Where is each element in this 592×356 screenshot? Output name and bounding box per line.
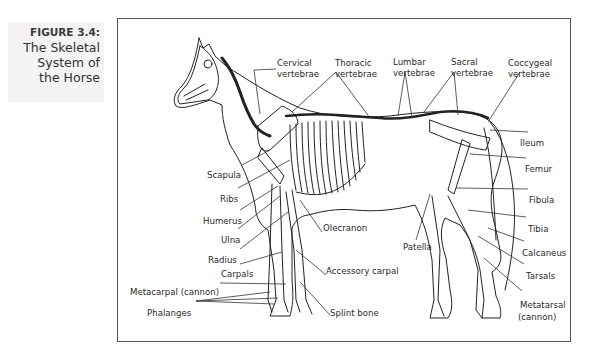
label-ileum: Ileum: [520, 138, 544, 148]
label-fibula: Fibula: [529, 195, 554, 205]
eye-orbit: [204, 60, 212, 68]
label-coccygeal-vertebrae: Coccygealvertebrae: [508, 58, 552, 79]
label-sacral-vertebrae: Sacralvertebrae: [451, 57, 493, 78]
label-metatarsal: Metatarsal(cannon): [518, 300, 566, 322]
label-tarsals: Tarsals: [525, 271, 556, 281]
label-phalanges: Phalanges: [147, 308, 192, 318]
humerus-bone: [258, 148, 284, 184]
skull: [178, 46, 219, 104]
label-thoracic-vertebrae: Thoracicvertebrae: [334, 58, 377, 79]
label-femur: Femur: [525, 164, 553, 174]
bone-labels: Cervicalvertebrae Thoracicvertebrae Lumb…: [130, 57, 567, 322]
label-tibia: Tibia: [527, 224, 548, 234]
label-lumbar-vertebrae: Lumbarvertebrae: [393, 57, 435, 78]
ribs: [290, 121, 365, 195]
label-scapula: Scapula: [207, 170, 241, 180]
label-metacarpal: Metacarpal (cannon): [130, 287, 219, 297]
label-ulna: Ulna: [221, 235, 240, 245]
jaw-teeth: [184, 84, 208, 100]
label-ribs: Ribs: [220, 194, 239, 204]
front-leg-2b: [292, 190, 312, 314]
label-olecranon: Olecranon: [323, 223, 367, 233]
horse-skeleton-diagram: Cervicalvertebrae Thoracicvertebrae Lumb…: [0, 0, 592, 356]
label-calcaneus: Calcaneus: [522, 248, 567, 258]
label-patella: Patella: [403, 242, 432, 252]
scapula: [258, 106, 298, 151]
label-accessory-carpal: Accessory carpal: [326, 266, 399, 276]
label-humerus: Humerus: [203, 216, 243, 226]
label-radius: Radius: [208, 255, 237, 265]
label-cervical-vertebrae: Cervicalvertebrae: [277, 58, 319, 79]
front-leg-1b: [280, 186, 288, 312]
femur-bone: [448, 140, 470, 194]
label-splint-bone: Splint bone: [330, 308, 379, 318]
label-carpals: Carpals: [221, 269, 254, 279]
